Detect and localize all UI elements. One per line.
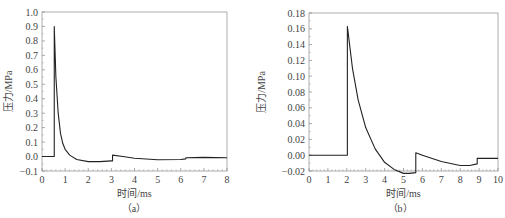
chart-panel-b: 0123456789100.180.160.140.120.100.080.06… [253,0,505,218]
x-axis-title: 时间/ms [386,187,421,199]
y-tick-label: 0.14 [288,39,306,50]
chart-panel-a: 0123456781.00.90.80.70.60.50.40.30.20.10… [0,0,252,218]
x-tick-label: 3 [109,174,114,185]
y-tick-label: 0.02 [288,134,306,145]
x-tick-label: 6 [178,174,183,185]
pressure-curve [42,26,227,161]
chart-a-svg: 0123456781.00.90.80.70.60.50.40.30.20.10… [0,0,252,218]
y-axis-title: 压力/MPa [255,71,267,113]
x-tick-label: 9 [477,174,482,185]
y-tick-label: 0.7 [26,50,39,61]
y-tick-label: 0.04 [288,118,306,129]
y-tick-label: 0.18 [288,8,306,19]
y-tick-label: 0.16 [288,23,306,34]
x-tick-label: 3 [363,174,368,185]
pressure-curve [309,26,498,173]
y-tick-label: 0.00 [288,150,306,161]
y-axis-title: 压力/MPa [2,70,14,112]
caption-b: （b） [370,200,430,215]
y-tick-label: 0.10 [288,71,306,82]
x-tick-label: 5 [155,174,160,185]
x-axis-title: 时间/ms [117,187,152,199]
x-tick-label: 8 [225,174,230,185]
y-tick-label: 0.2 [26,122,39,133]
y-tick-label: 0.9 [26,21,39,32]
y-tick-label: 0.06 [288,102,306,113]
y-tick-label: 0.3 [26,108,39,119]
x-tick-label: 1 [63,174,68,185]
plot-frame [309,13,498,171]
x-tick-label: 6 [420,174,425,185]
y-tick-label: 0.6 [26,64,39,75]
x-tick-label: 1 [325,174,330,185]
x-tick-label: 0 [307,174,312,185]
x-tick-label: 8 [458,174,463,185]
x-tick-label: 2 [86,174,91,185]
x-tick-label: 7 [201,174,206,185]
caption-a: （a） [104,200,164,215]
y-tick-label: −0.1 [20,166,38,177]
x-tick-label: 4 [132,174,137,185]
y-tick-label: −0.02 [282,166,305,177]
x-tick-label: 5 [401,174,406,185]
y-tick-label: 1.0 [26,7,39,18]
plot-frame [42,12,227,171]
x-tick-label: 10 [493,174,503,185]
chart-b-svg: 0123456789100.180.160.140.120.100.080.06… [253,0,505,218]
y-tick-label: 0.5 [26,79,39,90]
y-tick-label: 0.1 [26,137,39,148]
y-tick-label: 0.0 [26,151,39,162]
x-tick-label: 7 [439,174,444,185]
y-tick-label: 0.08 [288,87,306,98]
x-tick-label: 2 [344,174,349,185]
x-tick-label: 0 [40,174,45,185]
x-tick-label: 4 [382,174,387,185]
y-tick-label: 0.8 [26,35,39,46]
y-tick-label: 0.4 [26,93,39,104]
y-tick-label: 0.12 [288,55,306,66]
